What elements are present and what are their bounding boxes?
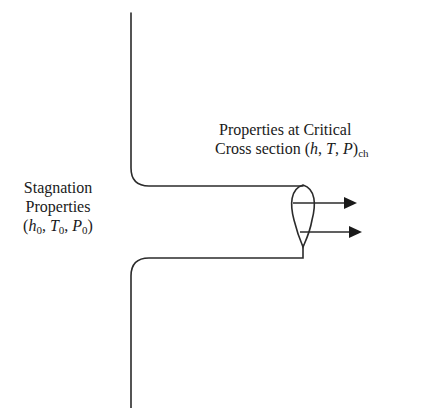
upper-flow-arrowhead-icon bbox=[344, 197, 357, 209]
stagnation-line2: Properties bbox=[4, 197, 112, 216]
critical-cross-section bbox=[292, 185, 315, 247]
stagnation-label: Stagnation Properties (h0, T0, P0) bbox=[4, 178, 112, 235]
stagnation-line1: Stagnation bbox=[4, 178, 112, 197]
critical-label: Properties at Critical Cross section (h,… bbox=[215, 120, 369, 158]
lower-flow-arrowhead-icon bbox=[349, 226, 362, 238]
stagnation-line3: (h0, T0, P0) bbox=[4, 216, 112, 235]
critical-line2: Cross section (h, T, P)ch bbox=[215, 139, 369, 158]
upper-wall bbox=[131, 13, 303, 186]
critical-line1: Properties at Critical bbox=[215, 120, 369, 139]
lower-wall bbox=[131, 245, 303, 408]
